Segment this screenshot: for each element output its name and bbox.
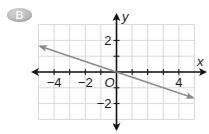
y-tick-label: −2 [97, 96, 112, 111]
x-tick-label: −2 [78, 75, 93, 90]
origin-label: O [105, 75, 115, 90]
y-axis-label: y [121, 9, 130, 24]
coordinate-plane: −4−242−2xyO [0, 0, 209, 134]
x-axis-label: x [196, 54, 204, 69]
y-tick-label: 2 [104, 33, 111, 48]
x-tick-label: −4 [47, 75, 62, 90]
line-segment-left [40, 46, 116, 72]
x-tick-label: 4 [175, 75, 182, 90]
